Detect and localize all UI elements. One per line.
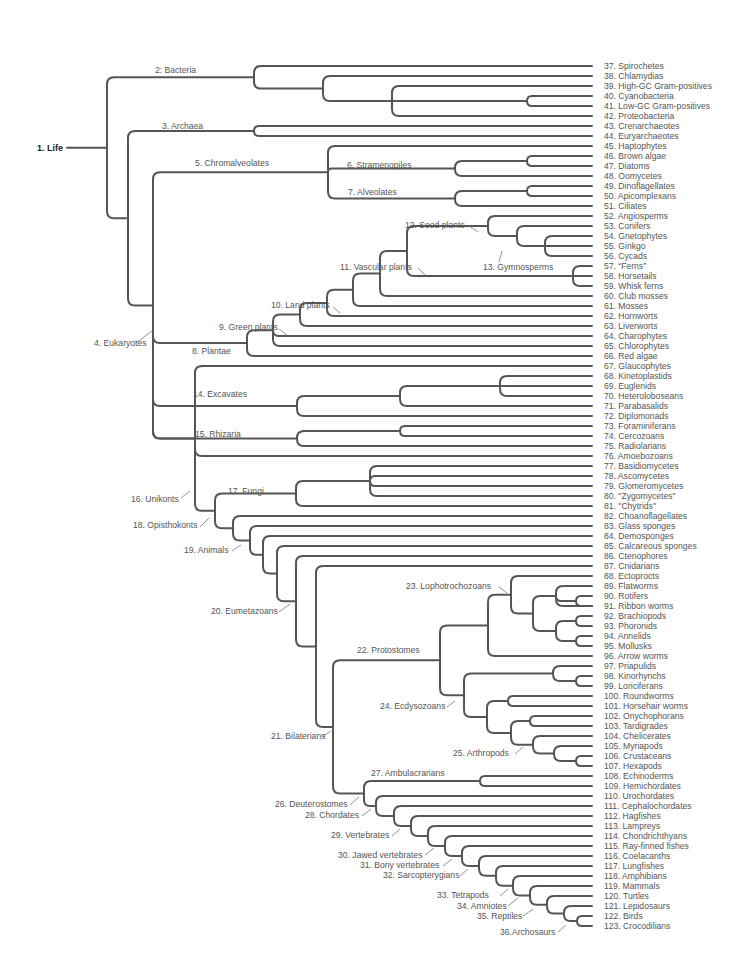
tree-branch: [527, 161, 592, 166]
tree-branch: [545, 236, 592, 246]
taxon-label: 69. Euglenids: [604, 381, 656, 391]
taxon-label: 98. Kinorhynchs: [604, 671, 666, 681]
tree-branch: [250, 540, 263, 554]
tree-branch: [573, 266, 592, 276]
taxon-label: 52. Angiosperms: [604, 211, 668, 221]
tree-branch: [277, 546, 592, 574]
tree-branch: [254, 131, 592, 136]
taxon-label: 97. Priapulids: [604, 661, 656, 671]
tree-branch: [479, 866, 496, 876]
clade-label: 27. Ambulacrarians: [371, 768, 445, 778]
taxon-label: 87. Cnidarians: [604, 561, 659, 571]
tree-branch: [297, 406, 592, 416]
taxon-label: 107. Hexapods: [604, 761, 662, 771]
tree-branch: [107, 77, 254, 147]
taxon-label: 82. Choanoflagellates: [604, 511, 687, 521]
tree-branch: [376, 796, 592, 806]
taxon-label: 47. Diatoms: [604, 161, 650, 171]
tree-branch: [370, 481, 592, 496]
tree-branch: [400, 426, 592, 431]
tree-branch: [500, 376, 592, 386]
tree-branch: [480, 781, 592, 786]
tree-branch: [576, 761, 592, 766]
tree-branch: [323, 89, 392, 102]
leader-line: [232, 545, 241, 551]
clade-label: 14. Excavates: [193, 389, 247, 399]
taxon-label: 65. Chlorophytes: [604, 341, 669, 351]
taxon-label: 106. Crustaceans: [604, 751, 671, 761]
taxon-label: 108. Echinoderms: [604, 771, 673, 781]
tree-branch: [327, 303, 592, 316]
leader-line: [392, 829, 400, 836]
tree-branch: [533, 736, 592, 745]
tree-branch: [428, 836, 445, 846]
clade-label: 2: Bacteria: [155, 65, 196, 75]
taxon-label: 66. Red algae: [604, 351, 658, 361]
clade-label: 34. Amniotes: [457, 901, 507, 911]
taxon-label: 50. Apicomplexans: [604, 191, 676, 201]
taxon-label: 49. Dinoflagellates: [604, 181, 675, 191]
clade-label: 36.Archosaurs: [500, 927, 555, 937]
tree-branch: [576, 601, 592, 606]
taxon-label: 92. Brachiopods: [604, 611, 666, 621]
taxon-label: 41. Low-GC Gram-positives: [604, 101, 710, 111]
tree-branch: [527, 156, 592, 161]
tree-branch: [533, 745, 554, 754]
tree-branch: [316, 646, 333, 726]
taxon-label: 61. Mosses: [604, 301, 648, 311]
tree-branch: [364, 781, 480, 793]
clade-label: 10. Land plants: [271, 300, 330, 310]
taxon-label: 102. Onychophorans: [604, 711, 684, 721]
clade-label: 30. Jawed vertebrates: [338, 850, 423, 860]
tree-branch: [263, 555, 277, 574]
taxon-label: 46. Brown algae: [604, 151, 666, 161]
tree-branch: [464, 695, 487, 717]
tree-branch: [527, 101, 592, 106]
taxon-label: 123. Crocodilians: [604, 921, 670, 931]
taxon-label: 116. Coelacanths: [604, 851, 670, 861]
tree-branch: [553, 666, 592, 674]
clade-label: 29. Vertebrates: [331, 830, 389, 840]
tree-branch: [496, 876, 513, 886]
tree-branch: [500, 386, 592, 396]
tree-branch: [394, 816, 411, 826]
tree-branch: [530, 721, 592, 726]
clade-label: 4. Eukaryotes: [94, 338, 147, 348]
taxon-label: 53. Conifers: [604, 221, 650, 231]
clade-label: 26. Deuterostomes: [275, 799, 348, 809]
tree-branch: [277, 574, 296, 602]
taxon-label: 109. Hemichordates: [604, 781, 681, 791]
root-label: 1. Life: [37, 143, 63, 153]
tree-branch: [233, 528, 250, 540]
taxon-label: 118. Amphibians: [604, 871, 667, 881]
tree-branch: [556, 631, 576, 641]
tree-branch: [297, 439, 592, 447]
clade-label: 35. Reptiles: [477, 911, 522, 921]
tree-branch: [564, 906, 592, 914]
taxon-label: 117. Lungfishes: [604, 861, 664, 871]
tree-branch: [364, 793, 376, 805]
clade-label: 19. Animals: [184, 545, 228, 555]
tree-branch: [533, 596, 556, 614]
taxon-label: 95. Mollusks: [604, 641, 652, 651]
taxon-label: 71. Parabasalids: [604, 401, 668, 411]
clade-label: 20. Eumetazoans: [211, 606, 278, 616]
taxon-label: 122. Birds: [604, 911, 643, 921]
taxon-label: 62. Hornworts: [604, 311, 658, 321]
taxon-label: 59. Whisk ferns: [604, 281, 663, 291]
taxon-label: 42. Proteobacteria: [604, 111, 674, 121]
tree-branch: [400, 386, 500, 396]
taxon-label: 55. Ginkgo: [604, 241, 646, 251]
clade-label: 13. Gymnosperms: [483, 262, 553, 272]
tree-branch: [455, 199, 592, 207]
taxon-label: 63. Liverworts: [604, 321, 658, 331]
clade-label: 25. Arthropods: [453, 748, 509, 758]
tree-branch: [400, 396, 592, 406]
tree-branch: [296, 481, 370, 494]
tree-branch: [576, 756, 592, 761]
tree-branch: [392, 101, 592, 116]
taxon-label: 86. Ctenophores: [604, 551, 668, 561]
taxon-label: 93. Phoronids: [604, 621, 657, 631]
tree-branch: [455, 169, 592, 177]
tree-branch: [370, 481, 592, 486]
